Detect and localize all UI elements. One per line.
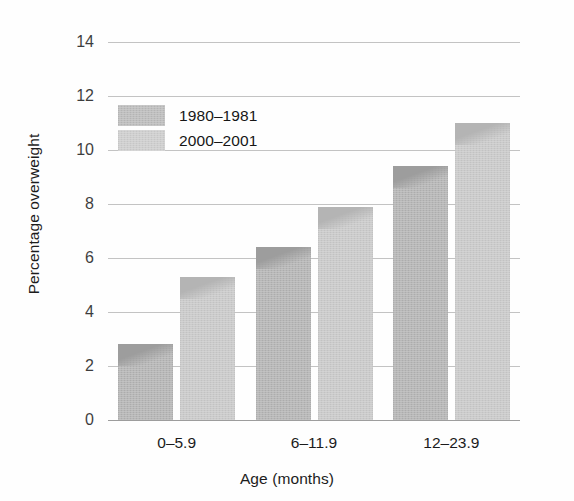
chart-legend: 1980–1981 2000–2001 xyxy=(118,103,257,153)
y-axis-tick-label: 8 xyxy=(85,195,94,213)
bar xyxy=(256,247,311,420)
y-axis-tick-label: 4 xyxy=(85,303,94,321)
legend-item: 2000–2001 xyxy=(118,128,257,153)
x-axis-title: Age (months) xyxy=(0,470,574,488)
y-axis-tick-label: 10 xyxy=(76,141,94,159)
bar xyxy=(180,277,235,420)
bar xyxy=(393,166,448,420)
x-axis-category-label: 12–23.9 xyxy=(423,434,479,452)
legend-label-2000-2001: 2000–2001 xyxy=(179,132,257,150)
bar-chart: Percentage overweight Age (months) 02468… xyxy=(0,0,574,501)
y-axis-tick-label: 12 xyxy=(76,87,94,105)
bar xyxy=(455,123,510,420)
y-axis-tick-label: 6 xyxy=(85,249,94,267)
y-axis-tick-label: 2 xyxy=(85,357,94,375)
gridline: 14 xyxy=(108,42,520,43)
plot-area: 02468101214 xyxy=(108,42,520,420)
bar xyxy=(318,207,373,420)
legend-item: 1980–1981 xyxy=(118,103,257,128)
legend-swatch-1980-1981 xyxy=(118,105,165,126)
legend-swatch-2000-2001 xyxy=(118,130,165,151)
x-axis-category-label: 0–5.9 xyxy=(157,434,196,452)
y-axis-tick-label: 14 xyxy=(76,33,94,51)
gridline: 12 xyxy=(108,96,520,97)
bar xyxy=(118,344,173,420)
gridline: 0 xyxy=(108,420,520,421)
legend-label-1980-1981: 1980–1981 xyxy=(179,107,257,125)
x-axis-category-label: 6–11.9 xyxy=(291,434,337,452)
y-axis-tick-label: 0 xyxy=(85,411,94,429)
y-axis-title: Percentage overweight xyxy=(25,94,43,334)
